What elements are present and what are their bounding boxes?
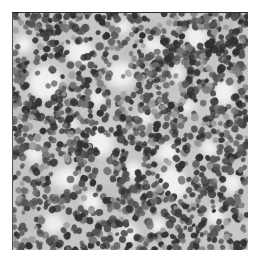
histopathology-micrograph-image: [13, 13, 248, 250]
page-canvas: [0, 0, 265, 261]
micrograph-frame: [12, 12, 248, 250]
film-grain-overlay: [13, 13, 248, 250]
